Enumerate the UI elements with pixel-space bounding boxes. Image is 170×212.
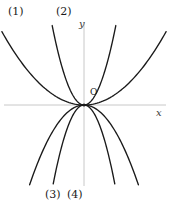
curve-4-narrow-downward (53, 105, 84, 184)
origin-label: O (90, 88, 97, 97)
curve-label-1: (1) (8, 6, 24, 17)
curve-label-2: (2) (56, 6, 72, 17)
parabola-figure: (1) (2) (3) (4) y x O (0, 0, 170, 212)
curve-2-narrow-upward-right (84, 26, 116, 105)
curve-4-narrow-downward-right (84, 105, 115, 184)
curve-3-wide-downward-right (84, 105, 138, 185)
curve-label-3: (3) (45, 189, 61, 200)
curve-label-4: (4) (67, 189, 83, 200)
y-axis-label: y (79, 19, 85, 29)
curve-2-narrow-upward (52, 26, 84, 105)
curve-3-wide-downward (30, 105, 84, 185)
plot-canvas (0, 0, 170, 212)
origin-point (82, 103, 85, 106)
x-axis-label: x (156, 108, 162, 118)
